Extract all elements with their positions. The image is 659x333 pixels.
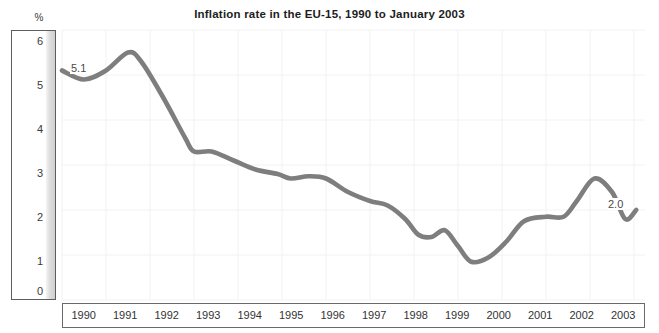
start-value-label: 5.1: [70, 62, 87, 74]
end-value-label: 2.0: [607, 198, 624, 210]
x-tick-2003: 2003: [602, 309, 644, 322]
x-tick-2000: 2000: [478, 309, 520, 322]
x-axis-labels: 1990199119921993199419951996199719981999…: [63, 304, 644, 327]
y-axis-panel: 6 5 4 3 2 1 0: [11, 30, 56, 300]
x-tick-1999: 1999: [436, 309, 478, 322]
y-axis-gradient-strip: [46, 31, 55, 299]
y-tick-1: 1: [23, 255, 43, 267]
y-tick-4: 4: [23, 123, 43, 135]
x-tick-1993: 1993: [187, 309, 229, 322]
y-tick-0: 0: [23, 285, 43, 297]
x-axis-panel: 1990199119921993199419951996199719981999…: [62, 303, 645, 328]
y-tick-2: 2: [23, 211, 43, 223]
y-axis-unit-label: %: [30, 12, 48, 24]
x-tick-2002: 2002: [561, 309, 603, 322]
inflation-line-chart: Inflation rate in the EU-15, 1990 to Jan…: [0, 0, 659, 333]
y-tick-3: 3: [23, 167, 43, 179]
x-tick-2001: 2001: [519, 309, 561, 322]
x-tick-1996: 1996: [312, 309, 354, 322]
x-tick-1990: 1990: [63, 309, 105, 322]
chart-title: Inflation rate in the EU-15, 1990 to Jan…: [0, 8, 659, 20]
plot-area: [62, 30, 645, 300]
x-tick-1991: 1991: [104, 309, 146, 322]
x-tick-1995: 1995: [270, 309, 312, 322]
y-tick-5: 5: [23, 79, 43, 91]
y-tick-6: 6: [23, 35, 43, 47]
x-tick-1994: 1994: [229, 309, 271, 322]
series-layer: [62, 30, 645, 300]
x-tick-1997: 1997: [353, 309, 395, 322]
x-tick-1998: 1998: [395, 309, 437, 322]
inflation-series-line: [62, 52, 636, 262]
x-tick-1992: 1992: [146, 309, 188, 322]
